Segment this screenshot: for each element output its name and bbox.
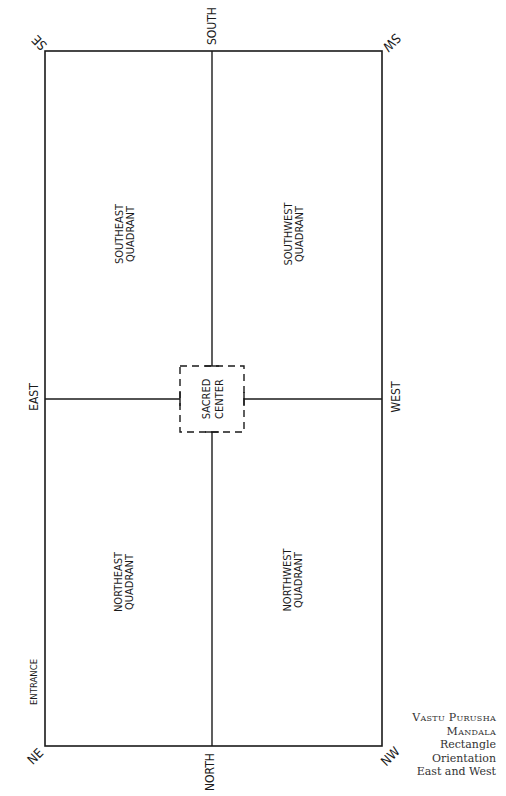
caption-line3: Rectangle — [412, 738, 496, 752]
caption-title-line1: Vastu Purusha — [412, 711, 496, 725]
vastu-mandala-diagram: SE SW NE NW SOUTH NORTH EAST WEST SOUTHE… — [0, 0, 506, 796]
northeast-quadrant-label: NORTHEAST QUADRANT — [112, 551, 136, 612]
svg-text:QUADRANT: QUADRANT — [123, 553, 136, 610]
caption-title-line2: Mandala — [412, 725, 496, 739]
sacred-center-label: SACRED CENTER — [200, 378, 226, 419]
svg-text:SACRED: SACRED — [200, 378, 213, 419]
direction-south-label: SOUTH — [205, 7, 219, 45]
caption-line5: East and West — [412, 765, 496, 779]
svg-text:QUADRANT: QUADRANT — [124, 205, 137, 262]
southwest-quadrant-label: SOUTHWEST QUADRANT — [282, 201, 306, 265]
direction-east-label: EAST — [27, 383, 41, 411]
direction-west-label: WEST — [389, 381, 403, 412]
svg-text:QUADRANT: QUADRANT — [293, 205, 306, 262]
svg-text:CENTER: CENTER — [213, 379, 226, 419]
corner-se-label: SE — [29, 32, 50, 53]
entrance-label: ENTRANCE — [28, 659, 39, 705]
caption-line4: Orientation — [412, 752, 496, 766]
corner-nw-label: NW — [378, 744, 403, 769]
southeast-quadrant-label: SOUTHEAST QUADRANT — [113, 203, 137, 264]
northwest-quadrant-label: NORTHWEST QUADRANT — [281, 547, 305, 611]
corner-sw-label: SW — [379, 31, 403, 55]
svg-text:QUADRANT: QUADRANT — [292, 551, 305, 608]
figure-caption: Vastu Purusha Mandala Rectangle Orientat… — [412, 711, 496, 779]
corner-ne-label: NE — [24, 745, 46, 767]
direction-north-label: NORTH — [203, 753, 217, 791]
